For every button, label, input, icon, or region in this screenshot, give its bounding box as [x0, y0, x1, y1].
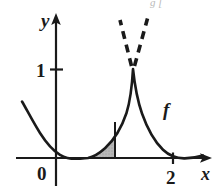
x-tick-label-2: 2 — [166, 167, 176, 188]
y-tick-label-1: 1 — [36, 60, 46, 81]
x-axis-label: x — [200, 164, 210, 184]
curve-label-f: f — [163, 99, 171, 120]
left-tangent-dashed-line — [120, 20, 132, 66]
y-axis-label: y — [39, 10, 50, 31]
function-graph-figure: y x 0 1 2 f — [0, 0, 216, 192]
origin-label: 0 — [37, 163, 47, 184]
figure-container: g [ y x 0 1 2 — [0, 0, 216, 192]
right-tangent-dashed-line — [135, 19, 148, 67]
